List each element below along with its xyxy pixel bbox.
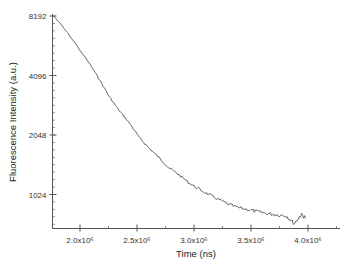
x-tick-label: 2.0x10⁶: [66, 236, 93, 245]
y-tick-label: 2048: [29, 131, 47, 140]
x-tick-label: 3.5x10⁶: [237, 236, 264, 245]
x-ticks: 2.0x10⁶2.5x10⁶3.0x10⁶3.5x10⁶4.0x10⁶: [66, 225, 336, 245]
y-axis-title: Fluorescence Intensity (a.u.): [7, 62, 18, 182]
x-tick-label: 2.5x10⁶: [123, 236, 150, 245]
x-tick-label: 4.0x10⁶: [294, 236, 321, 245]
plot-area: 1024204840968192 2.0x10⁶2.5x10⁶3.0x10⁶3.…: [29, 12, 340, 245]
x-tick-label: 3.0x10⁶: [180, 236, 207, 245]
x-axis-title: Time (ns): [176, 248, 216, 259]
y-tick-label: 1024: [29, 191, 47, 200]
data-line: [54, 16, 306, 224]
decay-chart: 1024204840968192 2.0x10⁶2.5x10⁶3.0x10⁶3.…: [0, 0, 347, 270]
y-tick-label: 8192: [29, 12, 47, 21]
y-tick-label: 4096: [29, 72, 47, 81]
